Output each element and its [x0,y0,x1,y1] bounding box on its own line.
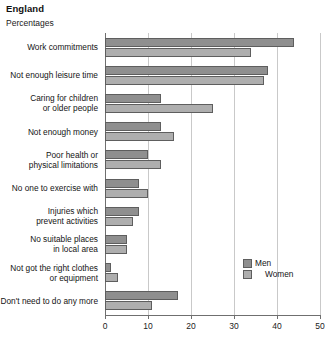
x-tick [320,315,321,319]
bar-men [105,263,111,272]
legend-label-women: Women [265,269,293,279]
chart-container: England Percentages 01020304050 Work com… [0,0,330,345]
bar-row: No suitable placesin local area [0,230,330,258]
category-label: No suitable placesin local area [0,234,98,254]
legend-swatch-men-icon [243,259,252,268]
category-label: Poor health orphysical limitations [0,150,98,170]
bar-row: Injuries whichprevent activities [0,202,330,230]
bar-men [105,207,139,216]
x-tick [277,315,278,319]
bar-men [105,38,294,47]
bar-row: Work commitments [0,33,330,61]
x-tick-label: 50 [315,321,324,331]
x-tick [191,315,192,319]
category-label-line: Injuries which [0,206,98,216]
x-tick-label: 40 [272,321,281,331]
bar-row: Poor health orphysical limitations [0,146,330,174]
x-tick-label: 0 [103,321,108,331]
bar-row: Not enough money [0,118,330,146]
bar-row: Not enough leisure time [0,61,330,89]
category-label: Don't need to do any more [0,296,98,306]
category-label: Injuries whichprevent activities [0,206,98,226]
category-label-line: physical limitations [0,160,98,170]
category-label-line: No one to exercise with [0,183,98,193]
x-tick-label: 10 [143,321,152,331]
bar-women [105,273,118,282]
bar-men [105,291,178,300]
bar-women [105,245,127,254]
category-label-line: Work commitments [0,42,98,52]
category-label: Not enough money [0,127,98,137]
x-tick-label: 20 [186,321,195,331]
bar-men [105,66,268,75]
bar-women [105,217,133,226]
category-label-line: in local area [0,244,98,254]
bar-men [105,150,148,159]
bar-women [105,189,148,198]
category-label: Caring for childrenor older people [0,93,98,113]
bar-women [105,48,251,57]
category-label: Work commitments [0,42,98,52]
bar-row: Don't need to do any more [0,287,330,315]
category-label-line: Not enough money [0,127,98,137]
bar-men [105,122,161,131]
chart-subtitle: Percentages [6,18,54,28]
category-label: Not got the right clothesor equipment [0,263,98,283]
legend-label-men: Men [255,258,271,268]
category-label-line: No suitable places [0,234,98,244]
bar-women [105,301,152,310]
bar-women [105,132,174,141]
category-label-line: prevent activities [0,216,98,226]
bar-row: No one to exercise with [0,174,330,202]
chart-title: England [6,3,44,14]
x-tick-label: 30 [229,321,238,331]
category-label-line: Caring for children [0,93,98,103]
category-label-line: Not got the right clothes [0,263,98,273]
category-label-line: Not enough leisure time [0,70,98,80]
bar-men [105,179,139,188]
category-label-line: Don't need to do any more [0,296,98,306]
x-tick [148,315,149,319]
bar-men [105,94,161,103]
bar-row: Caring for childrenor older people [0,89,330,117]
category-label-line: Poor health or [0,150,98,160]
category-label: No one to exercise with [0,183,98,193]
category-label-line: or equipment [0,273,98,283]
category-label-line: or older people [0,103,98,113]
bar-women [105,160,161,169]
category-label: Not enough leisure time [0,70,98,80]
bar-women [105,76,264,85]
bar-women [105,104,213,113]
x-tick [234,315,235,319]
x-tick [105,315,106,319]
bar-men [105,235,127,244]
x-axis-line [105,315,320,316]
legend-swatch-women-icon [243,270,252,279]
